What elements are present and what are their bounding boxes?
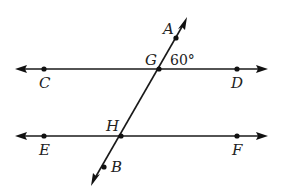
label-e: E (38, 141, 50, 159)
label-a: A (161, 20, 174, 38)
label-g: G (145, 51, 157, 69)
arrowhead-bottom-transversal (91, 173, 100, 186)
label-f: F (231, 141, 243, 159)
point-b (101, 164, 106, 169)
point-h (118, 133, 123, 138)
point-f (234, 133, 239, 138)
arrowhead-top-transversal (178, 17, 187, 30)
point-d (234, 66, 239, 71)
label-h: H (105, 117, 120, 135)
label-b: B (110, 158, 122, 176)
label-d: D (230, 74, 243, 92)
point-c (41, 66, 46, 71)
point-g (156, 66, 161, 71)
geometry-diagram: A G 60° C D H E F B (0, 0, 283, 196)
angle-label-60: 60° (170, 52, 195, 68)
point-a (173, 35, 178, 40)
transversal-ab (95, 25, 183, 178)
label-c: C (39, 74, 51, 92)
point-e (41, 133, 46, 138)
